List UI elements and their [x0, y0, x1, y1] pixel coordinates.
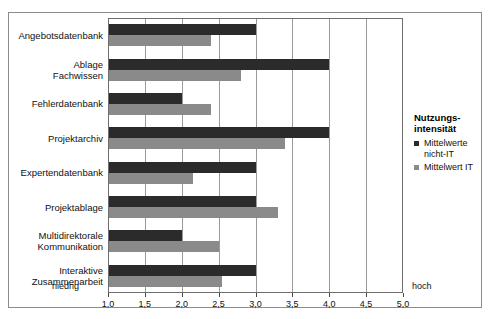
category-label-line: Interaktive [5, 265, 103, 276]
category-label: AblageFachwissen [5, 59, 103, 81]
legend: Nutzungs- intensität Mittelwertenicht-IT… [414, 112, 488, 175]
category-label-line: Fehlerdatenbank [5, 98, 103, 109]
legend-items: Mittelwertenicht-ITMittelwert IT [414, 138, 488, 173]
x-axis-tick [145, 293, 146, 297]
plot-area: 1,01,52,02,53,03,54,04,55,0 [108, 18, 403, 293]
legend-item-nicht-it[interactable]: Mittelwertenicht-IT [414, 138, 488, 160]
category-label-line: Ablage [5, 59, 103, 70]
x-axis-tick-label: 1,5 [125, 299, 165, 309]
legend-title: Nutzungs- intensität [414, 112, 488, 134]
legend-label-line1: Mittelwerte [424, 138, 488, 149]
category-label: MultidirektoraleKommunikation [5, 230, 103, 252]
legend-swatch-icon [414, 141, 419, 146]
category-label-line: Expertendatenbank [5, 167, 103, 178]
category-label: Expertendatenbank [5, 167, 103, 178]
axis-low-label: niedrig [52, 281, 79, 291]
category-label-line: Kommunikation [5, 241, 103, 252]
x-axis-tick [329, 293, 330, 297]
x-axis-tick [403, 293, 404, 297]
category-label-line: Projektablage [5, 202, 103, 213]
category-axis-labels: AngebotsdatenbankAblageFachwissenFehlerd… [0, 18, 103, 293]
x-axis-tick-label: 5,0 [383, 299, 423, 309]
x-axis-tick-label: 4,0 [309, 299, 349, 309]
category-label: Fehlerdatenbank [5, 98, 103, 109]
x-axis-tick [108, 293, 109, 297]
category-label: Projektablage [5, 202, 103, 213]
x-axis-tick-label: 4,5 [346, 299, 386, 309]
x-axis-tick-label: 2,5 [199, 299, 239, 309]
x-axis-tick-label: 3,0 [236, 299, 276, 309]
legend-item-it[interactable]: Mittelwert IT [414, 162, 488, 173]
x-axis-tick-label: 3,5 [272, 299, 312, 309]
x-axis-tick [219, 293, 220, 297]
axis-high-label: hoch [412, 281, 432, 291]
category-label: Angebotsdatenbank [5, 30, 103, 41]
category-label-line: Angebotsdatenbank [5, 30, 103, 41]
category-label-line: Projektarchiv [5, 133, 103, 144]
x-axis-tick [292, 293, 293, 297]
x-axis-tick-label: 1,0 [88, 299, 128, 309]
legend-label-line2: nicht-IT [424, 149, 488, 160]
chart-figure: AngebotsdatenbankAblageFachwissenFehlerd… [0, 0, 492, 319]
legend-swatch-icon [414, 165, 419, 170]
category-label: Projektarchiv [5, 133, 103, 144]
legend-title-line2: intensität [414, 123, 488, 134]
legend-title-line1: Nutzungs- [414, 112, 488, 123]
x-axis-tick [256, 293, 257, 297]
x-axis-tick [366, 293, 367, 297]
plot-frame [108, 18, 403, 293]
legend-label-line1: Mittelwert IT [424, 162, 488, 173]
x-axis-tick-label: 2,0 [162, 299, 202, 309]
category-label-line: Multidirektorale [5, 230, 103, 241]
chart-title-fragment [0, 0, 492, 8]
x-axis-tick [182, 293, 183, 297]
category-label-line: Fachwissen [5, 70, 103, 81]
